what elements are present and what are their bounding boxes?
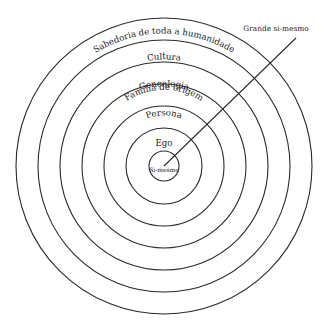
label-persona-text: Persona: [144, 107, 183, 120]
label-persona: Persona: [144, 107, 183, 120]
label-cultura-text: Cultura: [147, 51, 182, 62]
diagram-canvas: Sabedoria de toda a humanidade Cultura G…: [0, 0, 327, 336]
label-cultura: Cultura: [147, 51, 182, 62]
label-familia: Família de origem: [123, 82, 206, 103]
label-ego: Ego: [156, 138, 173, 148]
label-si-mesmo: Si-mesmo: [149, 166, 179, 173]
grande-si-mesmo-pointer: [164, 38, 296, 166]
label-familia-text: Família de origem: [123, 82, 206, 103]
self-layers-diagram: Sabedoria de toda a humanidade Cultura G…: [0, 0, 327, 336]
label-grande-si-mesmo: Grande si-mesmo: [243, 24, 309, 33]
